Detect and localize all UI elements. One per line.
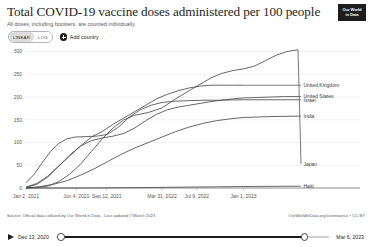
plus-circle-icon	[60, 33, 68, 41]
line-chart-svg: 050100150200250300Jan 2, 2021Jun 4, 2021…	[0, 43, 371, 205]
chart-toolbar: LINEAR LOG Add country	[8, 31, 99, 43]
y-axis-tick-label: 0	[19, 185, 22, 191]
source-note: Source: Official data collated by Our Wo…	[7, 213, 155, 218]
scale-linear-button[interactable]: LINEAR	[9, 32, 34, 42]
chart-page: Total COVID-19 vaccine doses administere…	[0, 0, 371, 247]
x-axis-tick-label: Mar 31, 2022	[147, 193, 177, 199]
y-axis-tick-label: 100	[14, 139, 23, 145]
chart-subtitle: All doses, including boosters, are count…	[7, 20, 307, 28]
series-label[interactable]: Japan	[304, 161, 318, 167]
series-label[interactable]: Haiti	[304, 183, 314, 189]
x-axis-tick-label: Jul 9, 2022	[185, 193, 210, 199]
timeline-start-date: Dec 13, 2020	[18, 234, 49, 240]
y-axis-tick-label: 50	[16, 162, 22, 168]
timeline-slider[interactable]	[56, 232, 329, 242]
scale-log-button[interactable]: LOG	[34, 32, 52, 42]
scale-toggle-group[interactable]: LINEAR LOG	[8, 31, 53, 43]
y-axis-tick-label: 300	[14, 48, 23, 54]
series-line[interactable]	[26, 97, 298, 188]
slider-handle-end[interactable]	[301, 233, 309, 241]
x-axis-tick-label: Jan 2, 2021	[13, 193, 39, 199]
series-label[interactable]: India	[304, 113, 315, 119]
logo-line-2: in Data	[338, 12, 366, 17]
add-country-label: Add country	[70, 34, 99, 40]
x-axis-tick-label: Sep 12, 2021	[92, 193, 122, 199]
timeline-control[interactable]: Dec 13, 2020 Mar 6, 2023	[7, 231, 364, 243]
y-axis-tick-label: 250	[14, 71, 23, 77]
series-line[interactable]	[26, 116, 298, 188]
y-axis-tick-label: 150	[14, 117, 23, 123]
series-label-connector	[298, 50, 301, 164]
play-icon[interactable]	[8, 234, 14, 240]
series-label[interactable]: Israel	[304, 97, 316, 103]
slider-handle-start[interactable]	[57, 233, 65, 241]
chart-plot-area[interactable]: 050100150200250300Jan 2, 2021Jun 4, 2021…	[0, 43, 371, 205]
series-line[interactable]	[26, 50, 298, 188]
x-axis-tick-label: Jun 4, 2021	[63, 193, 89, 199]
footer-link[interactable]: OurWorldInData.org/coronavirus • CC BY	[288, 213, 365, 218]
slider-fill	[61, 236, 305, 238]
add-country-button[interactable]: Add country	[60, 33, 99, 41]
owid-logo[interactable]: Our World in Data	[338, 4, 366, 21]
x-axis-tick-label: Jan 1, 2023	[231, 193, 257, 199]
chart-header: Total COVID-19 vaccine doses administere…	[7, 4, 307, 28]
y-axis-tick-label: 200	[14, 94, 23, 100]
timeline-end-date: Mar 6, 2023	[336, 234, 364, 240]
page-title: Total COVID-19 vaccine doses administere…	[7, 4, 307, 19]
series-label[interactable]: United Kingdom	[304, 82, 340, 88]
